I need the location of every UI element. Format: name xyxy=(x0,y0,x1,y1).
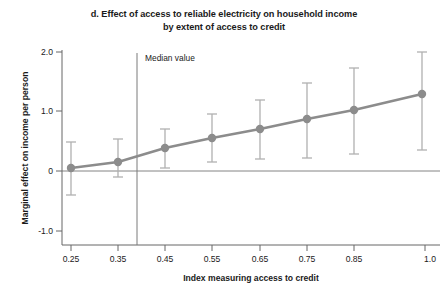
y-axis-title: Marginal effect on income per person xyxy=(20,72,30,225)
data-point xyxy=(114,158,122,166)
x-tick-label-3: 0.55 xyxy=(204,254,221,264)
x-tick-label-5: 0.75 xyxy=(299,254,316,264)
x-tick-label-6: 0.85 xyxy=(346,254,363,264)
plot-area: 2.0 1.0 0 -1.0 Marginal effect on income… xyxy=(0,0,448,294)
data-point xyxy=(303,115,311,123)
data-point xyxy=(256,125,264,133)
x-axis-title: Index measuring access to credit xyxy=(183,273,319,283)
x-tick-label-4: 0.65 xyxy=(252,254,269,264)
x-tick-marks xyxy=(71,245,425,251)
data-point xyxy=(208,134,216,142)
median-value-label: Median value xyxy=(145,53,195,63)
data-point xyxy=(161,144,169,152)
y-tick-label-1: 1.0 xyxy=(41,106,53,116)
marginal-effect-line xyxy=(71,94,422,168)
chart-figure: d. Effect of access to reliable electric… xyxy=(0,0,448,294)
y-tick-label-0: 0 xyxy=(48,166,53,176)
x-tick-label-1: 0.35 xyxy=(110,254,127,264)
data-point xyxy=(418,90,426,98)
x-tick-label-7: 1.0 xyxy=(424,254,436,264)
data-point xyxy=(350,106,358,114)
x-tick-label-0: 0.25 xyxy=(63,254,80,264)
y-tick-marks xyxy=(56,52,62,231)
x-tick-label-2: 0.45 xyxy=(157,254,174,264)
y-tick-label-neg1: -1.0 xyxy=(38,226,53,236)
data-point xyxy=(67,164,75,172)
y-tick-label-2: 2.0 xyxy=(41,47,53,57)
error-bars xyxy=(66,52,427,195)
